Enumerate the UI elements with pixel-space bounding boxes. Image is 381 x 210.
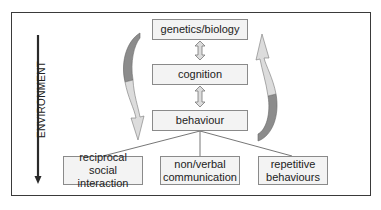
- double-arrow-icon: [195, 41, 205, 60]
- social-interaction-box: reciprocal social interaction: [63, 156, 143, 185]
- social-interaction-line2: social interaction: [64, 164, 142, 190]
- repetitive-behaviours-line1: repetitive: [271, 158, 316, 171]
- cognition-label: cognition: [178, 68, 222, 81]
- behaviour-box: behaviour: [152, 110, 248, 131]
- environment-label: ENVIRONMENT: [36, 68, 50, 138]
- behaviour-label: behaviour: [176, 114, 224, 127]
- cognition-box: cognition: [152, 64, 248, 85]
- curved-arrow-down-icon: [123, 33, 144, 140]
- repetitive-behaviours-line2: behaviours: [266, 171, 320, 184]
- double-arrow-icon: [195, 86, 205, 107]
- communication-box: non/verbal communication: [160, 156, 240, 185]
- communication-line1: non/verbal: [174, 158, 225, 171]
- social-interaction-line1: reciprocal: [79, 151, 127, 164]
- genetics-biology-label: genetics/biology: [161, 23, 240, 36]
- curved-arrow-up-icon: [256, 34, 277, 141]
- communication-line2: communication: [163, 171, 237, 184]
- repetitive-behaviours-box: repetitive behaviours: [258, 156, 328, 185]
- genetics-biology-box: genetics/biology: [152, 19, 248, 40]
